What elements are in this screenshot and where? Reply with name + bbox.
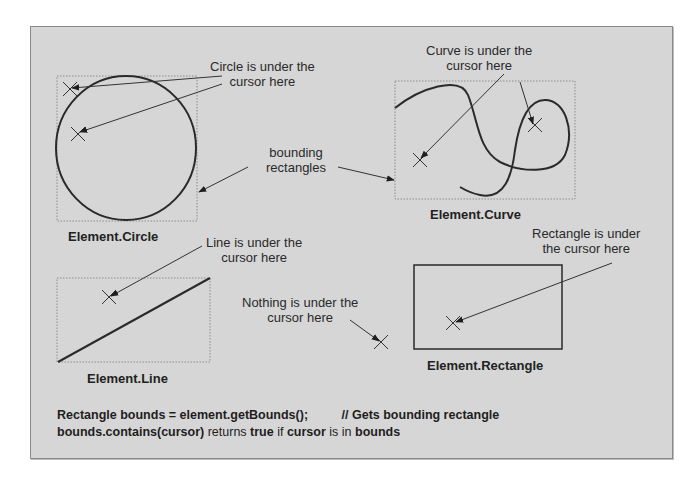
code-true: true — [250, 425, 274, 439]
arrow-line — [111, 246, 202, 296]
caption-line: Element.Line — [87, 371, 168, 386]
arrow-rectangle — [456, 263, 612, 322]
cursor-x-icon — [71, 127, 85, 141]
code-line-2: bounds.contains(cursor) returns true if … — [57, 425, 400, 439]
curve-note-line2: cursor here — [426, 58, 532, 73]
rect-note-line1: Rectangle is under — [532, 226, 640, 241]
caption-curve: Element.Curve — [430, 207, 521, 222]
nothing-note: Nothing is under the cursor here — [242, 295, 358, 325]
curve-bounding-rect — [395, 81, 575, 199]
code-returns: returns — [204, 425, 250, 439]
cursor-x-icon — [528, 118, 542, 132]
cursor-x-icon — [413, 153, 427, 167]
rect-note-line2: the cursor here — [532, 241, 640, 256]
arrow-bounding-right — [338, 167, 394, 180]
cursor-x-icon — [374, 335, 388, 349]
code-cursor: cursor — [287, 425, 326, 439]
code-bounds: bounds — [355, 425, 400, 439]
cursor-x-icon — [102, 290, 116, 304]
cursor-x-icon — [446, 316, 460, 330]
curve-shape — [395, 85, 569, 196]
arrow-circle-2 — [80, 84, 222, 132]
arrow-bounding-left — [199, 167, 248, 192]
code-line-1: Rectangle bounds = element.getBounds(); … — [57, 408, 499, 422]
caption-circle: Element.Circle — [68, 229, 158, 244]
line-shape — [58, 278, 210, 362]
bounding-note: bounding rectangles — [266, 145, 326, 175]
line-note-line2: cursor here — [206, 250, 302, 265]
nothing-note-line1: Nothing is under the — [242, 295, 358, 310]
arrow-circle-1 — [72, 76, 222, 88]
code-line-1-statement: Rectangle bounds = element.getBounds(); — [57, 408, 308, 422]
circle-note-line1: Circle is under the — [210, 59, 315, 74]
curve-element — [395, 74, 575, 199]
circle-note: Circle is under the cursor here — [210, 59, 315, 89]
cursor-x-icon — [63, 82, 77, 96]
code-bounds-contains: bounds.contains(cursor) — [57, 425, 204, 439]
bounding-note-line2: rectangles — [266, 160, 326, 175]
rectangle-shape — [414, 265, 562, 349]
line-note-line1: Line is under the — [206, 235, 302, 250]
circle-shape — [56, 76, 196, 220]
rectangle-element — [414, 263, 612, 349]
curve-note: Curve is under the cursor here — [426, 43, 532, 73]
code-if: if — [274, 425, 287, 439]
circle-element — [56, 76, 222, 221]
code-line-1-comment: // Gets bounding rectangle — [342, 408, 500, 422]
circle-note-line2: cursor here — [210, 74, 315, 89]
curve-note-line1: Curve is under the — [426, 43, 532, 58]
arrow-curve-2 — [520, 82, 533, 124]
line-element — [57, 246, 210, 362]
caption-rectangle: Element.Rectangle — [427, 358, 543, 373]
rect-note: Rectangle is under the cursor here — [532, 226, 640, 256]
line-note: Line is under the cursor here — [206, 235, 302, 265]
bounding-note-line1: bounding — [266, 145, 326, 160]
nothing-note-line2: cursor here — [242, 310, 358, 325]
code-is-in: is in — [326, 425, 355, 439]
